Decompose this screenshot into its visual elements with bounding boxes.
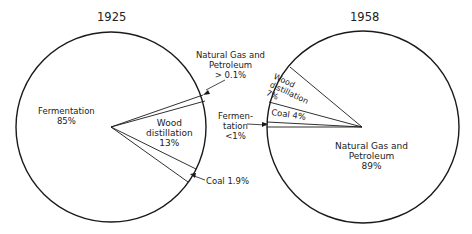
label-1958-fermentation: Fermen-tation<1%	[218, 111, 253, 141]
label-1925-wood: Wooddistillation13%	[146, 118, 193, 148]
title-1925: 1925	[97, 10, 126, 24]
label-1925-fermentation: Fermentation85%	[38, 106, 95, 126]
title-1958: 1958	[350, 10, 379, 24]
label-1925-coal: Coal 1.9%	[206, 176, 249, 186]
pie-1958	[247, 31, 459, 223]
label-1958-gas: Natural Gas andPetroleum89%	[335, 141, 408, 171]
pie-1925	[16, 32, 225, 222]
label-1925-gas: Natural Gas andPetroleum> 0.1%	[196, 50, 265, 80]
